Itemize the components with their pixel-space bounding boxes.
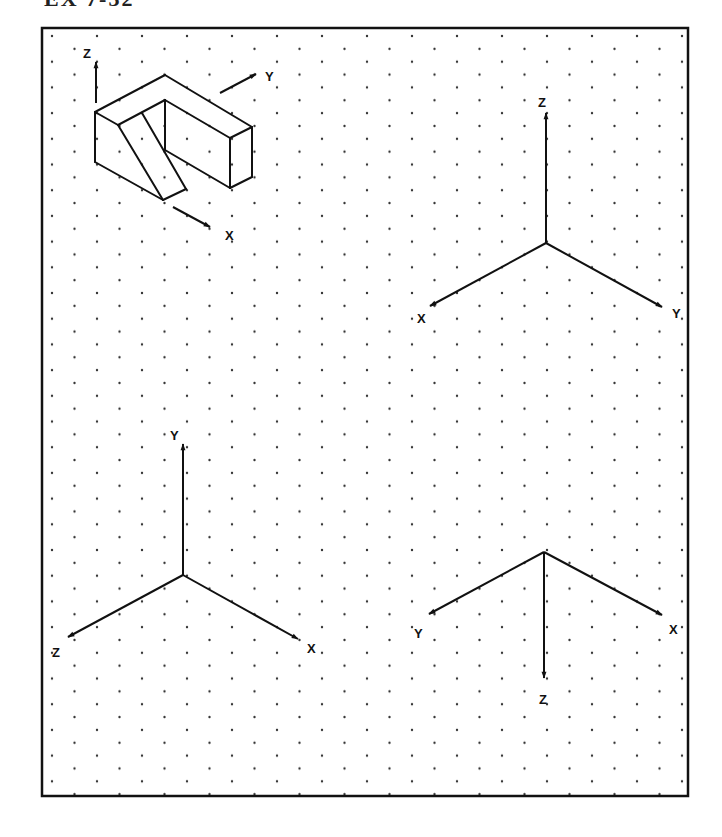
- bl-left-label: Z: [52, 645, 60, 660]
- isometric-worksheet: Z Y X Z X Y Y Z X Z Y X: [0, 0, 722, 837]
- br-right-label: X: [669, 622, 678, 637]
- bl-right-label: X: [307, 641, 316, 656]
- object-x-label: X: [225, 228, 234, 243]
- tr-left-label: X: [417, 311, 426, 326]
- dot-grid: [43, 29, 688, 796]
- br-down-label: Z: [539, 692, 547, 707]
- object-z-label: Z: [83, 46, 91, 61]
- object-y-label: Y: [265, 69, 274, 84]
- tr-right-label: Y: [672, 306, 681, 321]
- bl-up-label: Y: [170, 428, 179, 443]
- tr-up-label: Z: [538, 95, 546, 110]
- br-left-label: Y: [414, 626, 423, 641]
